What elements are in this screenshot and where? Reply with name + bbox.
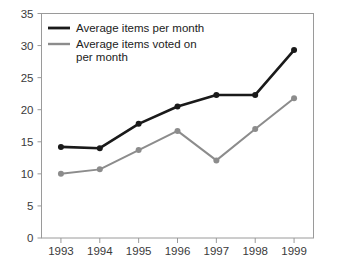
line-chart: 05101520253035 1993199419951996199719981…: [0, 0, 343, 270]
series-data-point: [175, 104, 181, 110]
y-tick-label: 20: [21, 104, 34, 116]
y-tick-label: 5: [27, 200, 33, 212]
data-series-group: [58, 47, 297, 177]
y-axis: 05101520253035: [21, 8, 42, 245]
series-data-point: [252, 92, 258, 98]
legend-label: per month: [76, 51, 128, 63]
legend-label: Average items voted on: [76, 38, 197, 50]
x-tick-label: 1999: [281, 245, 307, 257]
x-tick-label: 1996: [165, 245, 191, 257]
x-tick-label: 1994: [87, 245, 113, 257]
x-tick-label: 1997: [204, 245, 230, 257]
series-data-point: [291, 47, 297, 53]
y-tick-label: 30: [21, 40, 34, 52]
series-data-point: [291, 95, 297, 101]
x-tick-label: 1995: [126, 245, 152, 257]
series-data-point: [97, 145, 103, 151]
series-data-point: [213, 92, 219, 98]
series-data-point: [97, 166, 103, 172]
x-tick-label: 1998: [242, 245, 268, 257]
series-data-point: [136, 121, 142, 127]
series-data-point: [175, 128, 181, 134]
series-data-point: [58, 144, 64, 150]
x-axis: 1993199419951996199719981999: [48, 238, 307, 257]
chart-legend: Average items per monthAverage items vot…: [48, 22, 204, 63]
y-tick-label: 35: [21, 8, 34, 20]
series-data-point: [213, 157, 219, 163]
x-tick-label: 1993: [48, 245, 74, 257]
legend-label: Average items per month: [76, 22, 204, 34]
y-tick-label: 15: [21, 136, 34, 148]
y-tick-label: 0: [27, 232, 33, 244]
chart-canvas: 05101520253035 1993199419951996199719981…: [0, 0, 343, 270]
series-data-point: [58, 171, 64, 177]
series-data-point: [136, 147, 142, 153]
y-tick-label: 25: [21, 72, 34, 84]
series-line: [61, 98, 294, 174]
y-tick-label: 10: [21, 168, 34, 180]
series-data-point: [252, 126, 258, 132]
